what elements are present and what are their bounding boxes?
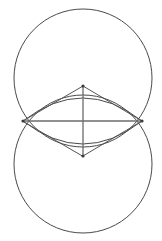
geometric-figure-canvas xyxy=(0,0,162,241)
marker-top-vertex xyxy=(81,84,84,87)
geometry-diagram xyxy=(0,0,162,241)
marker-right-vertex xyxy=(140,119,143,122)
marker-left-vertex xyxy=(21,119,24,122)
marker-bottom-vertex xyxy=(81,154,84,157)
